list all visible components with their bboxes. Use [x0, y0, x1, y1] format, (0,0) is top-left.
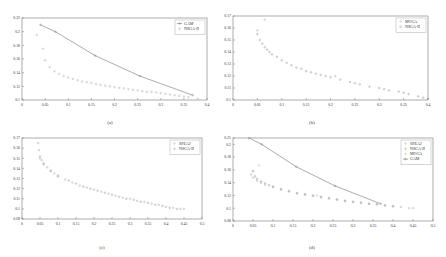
y-tick-label: 0.14 — [224, 50, 231, 54]
x-tick-label: 0.15 — [88, 103, 95, 107]
y-tick-label: 0.14 — [13, 167, 20, 171]
y-tick-label: 0.09 — [13, 217, 20, 221]
x-tick-label: 0.2 — [112, 103, 117, 107]
x-tick-label: 0.35 — [145, 222, 152, 226]
x-tick-label: 0.15 — [73, 222, 80, 226]
y-tick-label: 0.08 — [224, 219, 231, 223]
legend-label: NSGA-II — [179, 146, 195, 151]
x-tick-label: 0.15 — [290, 224, 297, 228]
x-tick-label: 0.05 — [254, 103, 261, 107]
legend-label: GAM — [410, 156, 420, 161]
x-tick-label: 0 — [21, 103, 23, 107]
y-tick-label: 0.17 — [224, 14, 231, 18]
chart-panel-c: 00.050.10.150.20.250.30.350.40.450.50.09… — [0, 128, 223, 257]
y-tick-label: 0.22 — [13, 16, 20, 20]
series-moga — [252, 165, 318, 197]
x-tick-label: 0.4 — [391, 224, 396, 228]
series-spea2 — [37, 142, 184, 209]
x-tick-label: 0.25 — [109, 222, 116, 226]
y-tick-label: 0.2 — [226, 143, 231, 147]
legend: SPEA2NSGA-IIMOGAGAM — [401, 140, 431, 165]
caption-d: (d) — [302, 245, 322, 250]
series-nsga-ii — [257, 33, 429, 99]
y-tick-label: 0.13 — [13, 177, 20, 181]
x-tick-label: 0.1 — [56, 222, 61, 226]
x-tick-label: 0.4 — [164, 222, 169, 226]
x-tick-label: 0.35 — [370, 224, 377, 228]
legend-label: NSGA-II — [184, 26, 200, 31]
x-tick-label: 0.05 — [250, 224, 257, 228]
y-tick-label: 0.12 — [224, 194, 231, 198]
y-tick-label: 0.12 — [13, 187, 20, 191]
y-tick-label: 0.1 — [15, 98, 20, 102]
x-tick-label: 0.4 — [205, 103, 210, 107]
x-tick-label: 0.1 — [271, 224, 276, 228]
x-tick-label: 0.4 — [426, 103, 431, 107]
series-moga — [257, 19, 337, 77]
x-tick-label: 0 — [21, 222, 23, 226]
x-tick-label: 0.35 — [400, 103, 407, 107]
y-tick-label: 0.16 — [13, 146, 20, 150]
chart-d: 00.050.10.150.20.250.30.350.40.450.50.08… — [223, 128, 446, 257]
x-tick-label: 0.45 — [410, 224, 417, 228]
y-tick-label: 0.11 — [224, 86, 231, 90]
chart-panel-a: 00.050.10.150.20.250.30.350.40.10.120.14… — [0, 0, 223, 128]
series-gam — [40, 24, 194, 96]
y-tick-label: 0.16 — [224, 168, 231, 172]
y-tick-label: 0.13 — [224, 62, 231, 66]
series-nsga-ii — [39, 157, 177, 209]
y-tick-label: 0.1 — [226, 98, 231, 102]
y-tick-label: 0.18 — [13, 44, 20, 48]
chart-panel-d: 00.050.10.150.20.250.30.350.40.450.50.08… — [223, 128, 446, 257]
chart-c: 00.050.10.150.20.250.30.350.40.450.50.09… — [0, 128, 223, 257]
x-tick-label: 0.5 — [200, 222, 205, 226]
x-tick-label: 0.1 — [66, 103, 71, 107]
x-tick-label: 0.2 — [311, 224, 316, 228]
x-tick-label: 0.3 — [128, 222, 133, 226]
y-tick-label: 0.12 — [13, 85, 20, 89]
y-tick-label: 0.15 — [13, 157, 20, 161]
caption-c: (c) — [92, 245, 112, 250]
x-tick-label: 0.5 — [431, 224, 436, 228]
x-tick-label: 0.05 — [42, 103, 49, 107]
x-tick-label: 0.3 — [351, 224, 356, 228]
y-tick-label: 0.12 — [224, 74, 231, 78]
y-tick-label: 0.1 — [15, 207, 20, 211]
x-tick-label: 0 — [232, 224, 234, 228]
y-tick-label: 0.11 — [13, 197, 20, 201]
x-tick-label: 0.45 — [181, 222, 188, 226]
legend: MOGANSGA-II — [396, 18, 426, 32]
chart-panel-b: 00.050.10.150.20.250.30.350.40.10.110.12… — [223, 0, 446, 128]
x-tick-label: 0.3 — [377, 103, 382, 107]
y-tick-label: 0.18 — [224, 155, 231, 159]
caption-a: (a) — [100, 120, 120, 125]
y-tick-label: 0.14 — [224, 181, 231, 185]
x-tick-label: 0 — [232, 103, 234, 107]
y-tick-label: 0.21 — [224, 136, 231, 140]
chart-b: 00.050.10.150.20.250.30.350.40.10.110.12… — [223, 0, 446, 128]
y-tick-label: 0.1 — [226, 207, 231, 211]
x-tick-label: 0.05 — [37, 222, 44, 226]
x-tick-label: 0.3 — [158, 103, 163, 107]
y-tick-label: 0.16 — [224, 26, 231, 30]
y-tick-label: 0.17 — [13, 136, 20, 140]
series-nsga-ii — [36, 34, 199, 99]
chart-a: 00.050.10.150.20.250.30.350.40.10.120.14… — [0, 0, 223, 128]
x-tick-label: 0.25 — [134, 103, 141, 107]
x-tick-label: 0.2 — [92, 222, 97, 226]
x-tick-label: 0.35 — [181, 103, 188, 107]
x-tick-label: 0.25 — [330, 224, 337, 228]
x-tick-label: 0.15 — [303, 103, 310, 107]
y-tick-label: 0.15 — [224, 38, 231, 42]
x-tick-label: 0.1 — [279, 103, 284, 107]
series-spea2 — [250, 174, 414, 209]
legend: SPEA2NSGA-II — [170, 140, 200, 154]
caption-b: (b) — [302, 120, 322, 125]
x-tick-label: 0.2 — [328, 103, 333, 107]
y-tick-label: 0.14 — [13, 71, 20, 75]
legend: GAMNSGA-II — [175, 20, 205, 34]
series-gam — [248, 137, 381, 204]
legend-label: NSGA-II — [405, 24, 421, 29]
y-tick-label: 0.16 — [13, 57, 20, 61]
series-nsga-ii — [252, 170, 394, 207]
